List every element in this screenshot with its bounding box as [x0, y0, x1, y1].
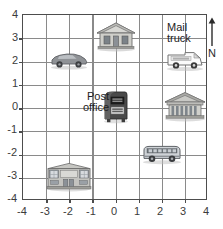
- house-icon: [94, 20, 138, 56]
- coordinate-grid-figure: 4 3 2 1 0 -1 -2 -3 -4 -4 -3 -2 -1 0 1 2 …: [0, 0, 223, 229]
- mail-truck-icon: [163, 48, 207, 76]
- y-axis-tick: [19, 155, 23, 157]
- x-tick-label: -3: [36, 206, 54, 217]
- mail-truck-label-line2: truck: [167, 32, 191, 44]
- up-arrow-icon: [203, 16, 221, 48]
- y-axis-tick: [19, 108, 23, 110]
- y-tick-label: 0: [0, 101, 18, 112]
- y-axis-tick: [19, 85, 23, 87]
- x-axis-tick: [162, 199, 164, 203]
- apartment-building-icon: [44, 160, 94, 196]
- y-tick-label: 2: [0, 55, 18, 66]
- x-tick-label: 1: [128, 206, 146, 217]
- x-tick-label: -4: [13, 206, 31, 217]
- post-office-label: Post office: [65, 91, 109, 114]
- x-tick-label: 2: [151, 206, 169, 217]
- post-office-label-line2: office: [83, 101, 109, 113]
- bus-icon: [139, 141, 185, 169]
- compass-north-label: N: [203, 48, 221, 59]
- mail-truck-icon-glyph: [163, 48, 207, 72]
- grid-line-horizontal: [23, 131, 206, 132]
- mail-truck-label-line1: Mail: [167, 21, 187, 33]
- grid-line-vertical: [139, 15, 140, 199]
- x-axis-tick: [46, 199, 48, 203]
- y-tick-label: -1: [0, 124, 17, 135]
- grid-line-horizontal: [23, 85, 206, 86]
- y-axis-tick: [19, 38, 23, 40]
- y-tick-label: -2: [0, 147, 17, 158]
- post-office-label-line1: Post: [87, 90, 109, 102]
- x-tick-label: -2: [59, 206, 77, 217]
- x-axis-tick: [69, 199, 71, 203]
- x-axis-tick: [116, 199, 118, 203]
- x-axis-tick: [185, 199, 187, 203]
- y-tick-label: -4: [0, 193, 17, 204]
- car-icon-glyph: [48, 50, 90, 70]
- y-axis-tick: [19, 62, 23, 64]
- x-tick-label: 3: [174, 206, 192, 217]
- y-tick-label: 3: [0, 32, 18, 43]
- car-icon: [48, 50, 90, 74]
- y-axis-tick: [19, 131, 23, 133]
- house-icon-glyph: [94, 20, 138, 52]
- bus-icon-glyph: [139, 141, 185, 165]
- bank-icon: [162, 90, 208, 126]
- mail-truck-label: Mail truck: [167, 22, 191, 45]
- apartment-building-icon-glyph: [44, 160, 94, 192]
- x-axis-tick: [92, 199, 94, 203]
- grid-plot-area: Mail truck Post office: [22, 14, 207, 200]
- bank-icon-glyph: [162, 90, 208, 122]
- x-tick-label: 0: [105, 206, 123, 217]
- x-tick-label: 4: [197, 206, 215, 217]
- x-axis-tick: [139, 199, 141, 203]
- y-tick-label: 4: [0, 9, 18, 20]
- x-tick-label: -1: [82, 206, 100, 217]
- y-axis-tick: [19, 178, 23, 180]
- y-tick-label: 1: [0, 78, 18, 89]
- compass: N: [203, 16, 221, 59]
- y-tick-label: -3: [0, 170, 17, 181]
